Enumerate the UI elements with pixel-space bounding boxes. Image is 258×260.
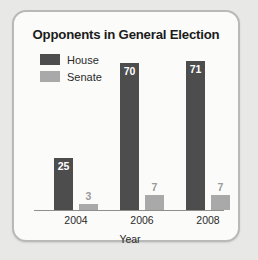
chart-frame: Opponents in General Election House Sena… bbox=[12, 10, 240, 242]
bar-rect bbox=[145, 195, 164, 210]
bar-group-2008: 71 7 bbox=[178, 42, 238, 210]
tick-label-2006: 2006 bbox=[112, 214, 172, 226]
bar-value-house-2008: 71 bbox=[186, 63, 205, 75]
bar-group-2006: 70 7 bbox=[112, 42, 172, 210]
tick-label-2004: 2004 bbox=[46, 214, 106, 226]
plot-container: 25 3 70 7 bbox=[32, 42, 228, 228]
bar-value-senate-2006: 7 bbox=[145, 181, 164, 193]
bar-value-house-2004: 25 bbox=[54, 160, 73, 172]
bar-value-senate-2008: 7 bbox=[211, 181, 230, 193]
bar-value-house-2006: 70 bbox=[120, 65, 139, 77]
bar-group-2004: 25 3 bbox=[46, 42, 106, 210]
x-axis-line bbox=[34, 210, 224, 211]
plot-area: 25 3 70 7 bbox=[32, 42, 228, 210]
tick-label-2008: 2008 bbox=[178, 214, 238, 226]
x-axis-ticks: 2004 2006 2008 bbox=[32, 214, 228, 230]
bar-rect: 70 bbox=[120, 63, 139, 210]
x-axis-label: Year bbox=[32, 233, 228, 245]
chart-title: Opponents in General Election bbox=[14, 27, 238, 42]
bar-rect: 71 bbox=[186, 61, 205, 210]
bar-rect bbox=[211, 195, 230, 210]
bar-value-senate-2004: 3 bbox=[79, 190, 98, 202]
bar-rect: 25 bbox=[54, 158, 73, 210]
